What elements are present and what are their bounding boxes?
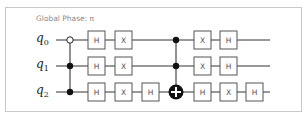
gate-x-q1: X [115, 57, 132, 75]
closed-control-q1-icon [67, 63, 73, 69]
svg-text:H: H [226, 62, 232, 71]
svg-text:H: H [148, 88, 154, 97]
gate-x-q2: X [115, 83, 132, 101]
circuit-canvas: H H H X X X H X X H [0, 0, 308, 118]
gate-x-q0-col6: X [194, 31, 211, 49]
gate-h-q2-col6: H [194, 83, 211, 101]
gate-h-q0: H [88, 31, 105, 49]
svg-text:H: H [200, 88, 206, 97]
gate-x-q0: X [115, 31, 132, 49]
gate-h-q2-col8: H [246, 83, 263, 101]
svg-text:X: X [200, 62, 205, 71]
svg-text:X: X [226, 88, 231, 97]
svg-text:X: X [200, 36, 205, 45]
svg-text:X: X [121, 88, 126, 97]
target-xor-q2-icon [169, 85, 184, 100]
gate-h-q1: H [88, 57, 105, 75]
svg-text:H: H [226, 36, 232, 45]
gate-h-q1-col7: H [220, 57, 237, 75]
gate-h-q2-col4: H [142, 83, 159, 101]
closed-control-q2-icon [67, 89, 73, 95]
closed-control-q1-icon [173, 63, 179, 69]
svg-text:H: H [252, 88, 258, 97]
svg-text:H: H [94, 88, 100, 97]
closed-control-q0-icon [173, 37, 179, 43]
svg-text:X: X [121, 36, 126, 45]
svg-text:H: H [94, 62, 100, 71]
gate-h-q0-col7: H [220, 31, 237, 49]
svg-text:X: X [121, 62, 126, 71]
open-control-q0-icon [67, 37, 73, 43]
gate-x-q1-col6: X [194, 57, 211, 75]
svg-text:H: H [94, 36, 100, 45]
gate-x-q2-col7: X [220, 83, 237, 101]
gate-h-q2: H [88, 83, 105, 101]
